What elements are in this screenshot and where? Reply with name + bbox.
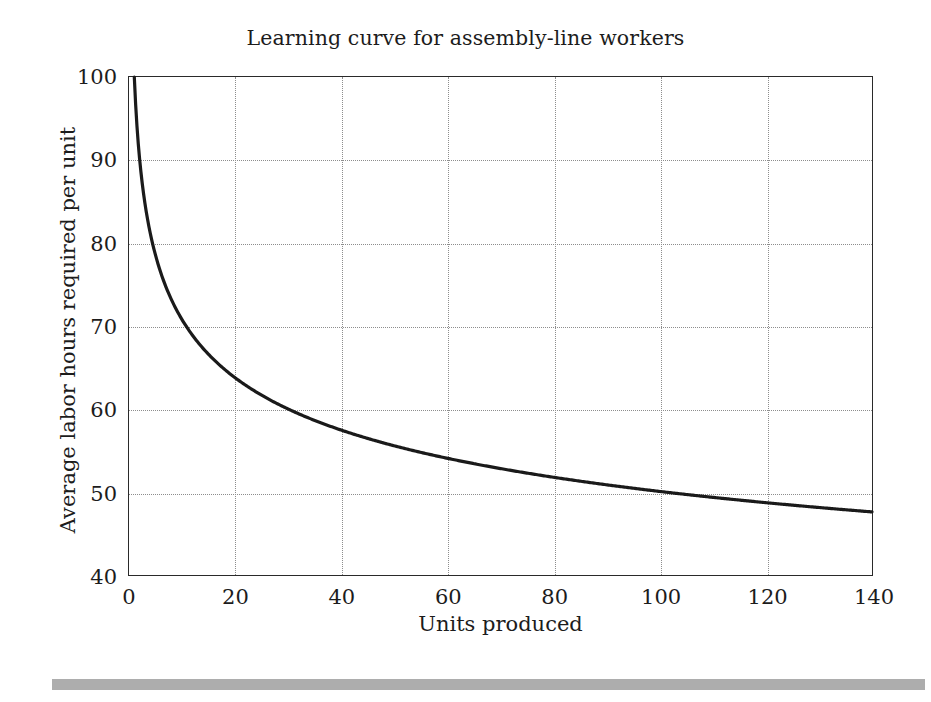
- y-tick-label: 80: [90, 232, 117, 256]
- y-tick-label: 60: [90, 398, 117, 422]
- figure-canvas: Learning curve for assembly-line workers…: [0, 0, 931, 702]
- plot-area: 405060708090100 020406080100120140: [128, 76, 873, 576]
- y-axis-label: Average labor hours required per unit: [56, 80, 80, 580]
- bottom-rule-bar: [52, 679, 925, 690]
- x-tick-label: 0: [122, 585, 135, 609]
- x-tick-label: 60: [435, 585, 462, 609]
- y-tick-label: 100: [77, 65, 117, 89]
- x-axis-label: Units produced: [128, 612, 873, 636]
- x-tick-label: 80: [541, 585, 568, 609]
- y-tick-label: 50: [90, 482, 117, 506]
- x-tick-label: 140: [854, 585, 894, 609]
- learning-curve-plot: [129, 77, 872, 575]
- chart-title: Learning curve for assembly-line workers: [0, 26, 931, 50]
- y-tick-label: 90: [90, 148, 117, 172]
- x-tick-label: 20: [222, 585, 249, 609]
- x-tick-label: 40: [328, 585, 355, 609]
- y-tick-label: 40: [90, 565, 117, 589]
- learning-curve-line: [134, 77, 872, 512]
- y-tick-label: 70: [90, 315, 117, 339]
- x-tick-label: 100: [641, 585, 681, 609]
- x-tick-label: 120: [748, 585, 788, 609]
